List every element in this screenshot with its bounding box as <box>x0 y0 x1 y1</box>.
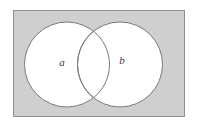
venn-diagram-canvas: a b <box>0 0 198 127</box>
set-label-b: b <box>119 54 125 66</box>
set-label-a: a <box>59 56 65 68</box>
venn-diagram-figure: a b <box>0 0 198 127</box>
